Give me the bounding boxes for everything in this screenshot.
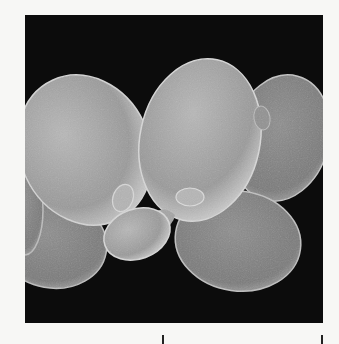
scale-bar-tick-left [162,335,164,344]
sem-micrograph-yeast-cells [25,15,323,323]
scale-bar-tick-right [321,335,323,344]
bud-scar-center [176,188,204,206]
cells-illustration [25,15,323,323]
